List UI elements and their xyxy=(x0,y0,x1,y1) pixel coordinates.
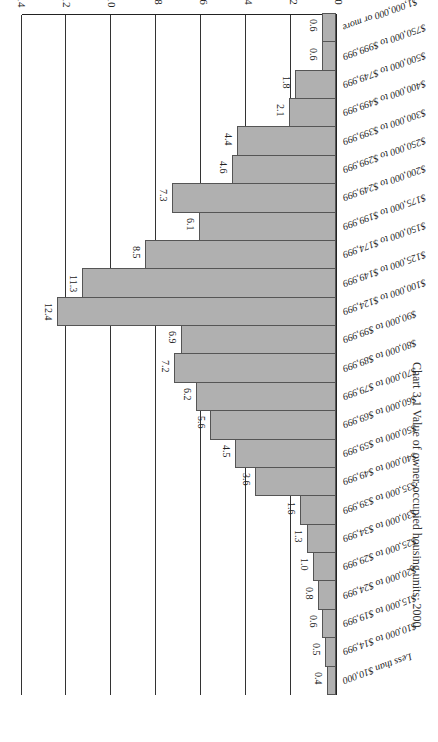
value-label: 0.8 xyxy=(304,587,315,600)
value-label: 4.4 xyxy=(223,133,234,146)
value-label: 0.6 xyxy=(309,615,320,628)
value-label: 0.6 xyxy=(309,48,320,61)
bar xyxy=(325,637,336,666)
value-label: 8.5 xyxy=(131,246,142,259)
bar xyxy=(181,325,336,354)
bar xyxy=(145,240,336,269)
tick-label: 14 xyxy=(16,0,28,8)
value-label: 4.5 xyxy=(221,445,232,458)
bar xyxy=(197,382,337,411)
bar xyxy=(314,552,337,581)
value-label: 11.3 xyxy=(68,275,79,292)
value-label: 1.8 xyxy=(282,76,293,89)
gridline xyxy=(65,15,66,695)
tick-label: 12 xyxy=(61,0,73,8)
tick-label: 2 xyxy=(288,0,300,5)
bar xyxy=(289,98,336,127)
value-label: 6.2 xyxy=(183,388,194,401)
tick-label: 0 xyxy=(333,0,345,5)
bar xyxy=(327,666,336,695)
tick-label: 8 xyxy=(153,0,165,5)
tick-label: 4 xyxy=(243,0,255,5)
gridline xyxy=(21,15,23,695)
value-label: 4.6 xyxy=(219,161,230,174)
bar xyxy=(210,410,336,439)
bar xyxy=(235,439,336,468)
bar xyxy=(233,155,337,184)
value-label: 7.2 xyxy=(160,360,171,373)
bar xyxy=(82,268,336,297)
gridline xyxy=(155,15,156,695)
bar xyxy=(237,127,336,156)
bar xyxy=(57,297,336,326)
value-label: 6.1 xyxy=(185,218,196,231)
category-label: Less than $10,000 xyxy=(341,651,413,686)
bar xyxy=(174,354,336,383)
value-label: 0.5 xyxy=(311,643,322,656)
value-label: 5.6 xyxy=(196,416,207,429)
value-label: 2.1 xyxy=(275,104,286,117)
bar xyxy=(323,609,337,638)
bar xyxy=(323,13,337,42)
value-label: 3.6 xyxy=(241,473,252,486)
value-label: 12.4 xyxy=(43,303,54,321)
value-label: 1.3 xyxy=(293,530,304,543)
tick-label: 6 xyxy=(198,0,210,5)
plot-area xyxy=(22,14,337,695)
bar xyxy=(318,581,336,610)
bar xyxy=(199,212,336,241)
bar xyxy=(172,183,336,212)
bar xyxy=(323,41,337,70)
value-label: 7.3 xyxy=(158,189,169,202)
bar xyxy=(296,70,337,99)
value-label: 0.6 xyxy=(309,19,320,32)
value-label: 1.0 xyxy=(300,558,311,571)
value-label: 6.9 xyxy=(167,331,178,344)
tick-label: 10 xyxy=(106,0,118,8)
value-label: 0.4 xyxy=(313,672,324,685)
gridline xyxy=(110,15,111,695)
bar xyxy=(255,467,336,496)
bar xyxy=(307,524,336,553)
value-label: 1.6 xyxy=(286,502,297,515)
chart-stage: Percentage of housing units Chart 3.1 Va… xyxy=(0,0,438,742)
bar xyxy=(300,495,336,524)
